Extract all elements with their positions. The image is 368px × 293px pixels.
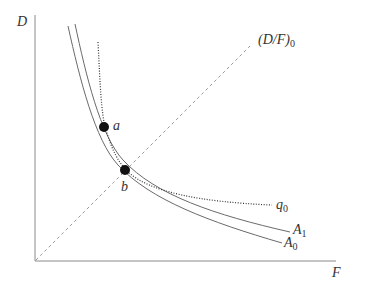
curve-a0: [68, 26, 282, 243]
q0-label-sub: 0: [283, 203, 288, 214]
a1-label-sub: 1: [302, 228, 307, 239]
q0-label-main: q: [276, 197, 283, 212]
point-b-label: b: [121, 180, 128, 194]
ray-df0: [36, 46, 250, 260]
point-a-label: a: [113, 119, 120, 133]
x-axis-label: F: [332, 266, 341, 280]
diagram-canvas: [0, 0, 368, 293]
a0-label-main: A: [284, 235, 293, 250]
ray-label-main: (D/F): [258, 32, 290, 47]
y-axis-label: D: [17, 15, 27, 29]
ray-label-sub: 0: [290, 38, 295, 49]
a1-label-main: A: [293, 222, 302, 237]
a0-label: A0: [284, 236, 298, 252]
point-b: [120, 165, 130, 175]
q0-label: q0: [276, 198, 288, 214]
a0-label-sub: 0: [293, 241, 298, 252]
point-a: [99, 122, 109, 132]
ray-label: (D/F)0: [258, 33, 295, 49]
